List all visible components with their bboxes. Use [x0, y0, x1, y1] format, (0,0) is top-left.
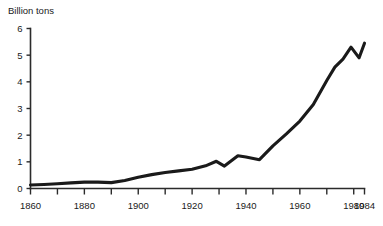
x-tick-label: 1860	[20, 200, 41, 211]
y-tick-label: 2	[17, 130, 22, 141]
x-tick-label: 1900	[128, 200, 149, 211]
y-axis-title: Billion tons	[8, 5, 54, 16]
x-tick-label: 1984	[354, 200, 375, 211]
chart-container: Billion tons 0123456 1860188019001920194…	[0, 0, 383, 226]
y-axis-ticks: 0123456	[17, 23, 30, 194]
x-tick-label: 1960	[289, 200, 310, 211]
data-series-line	[31, 43, 365, 185]
y-tick-label: 1	[17, 156, 22, 167]
x-tick-label: 1880	[74, 200, 95, 211]
x-tick-label: 1940	[235, 200, 256, 211]
x-tick-label: 1920	[182, 200, 203, 211]
y-tick-label: 6	[17, 23, 22, 34]
emissions-line-chart: Billion tons 0123456 1860188019001920194…	[0, 0, 383, 226]
y-tick-label: 0	[17, 183, 22, 194]
x-axis-ticks: 18601880190019201940196019801984	[20, 189, 375, 211]
y-tick-label: 3	[17, 103, 22, 114]
y-tick-label: 4	[17, 76, 22, 87]
y-tick-label: 5	[17, 50, 22, 61]
